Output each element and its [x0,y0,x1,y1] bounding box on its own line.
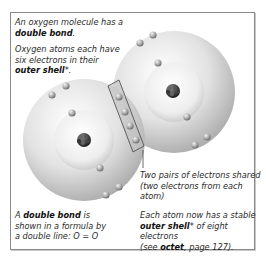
nucleus-left [77,133,91,147]
oxygen-atom-left [23,79,145,201]
caption-shared-electrons: Two pairs of electrons shared (two elect… [140,170,264,202]
caption-top: An oxygen molecule has a double bond. Ox… [15,17,135,76]
caption-stable-outer-shell: Each atom now has a stable outer shell* … [140,210,264,252]
caption-double-bond-formula: A double bond is shown in a formula by a… [15,210,133,242]
nucleus-right [166,84,180,98]
